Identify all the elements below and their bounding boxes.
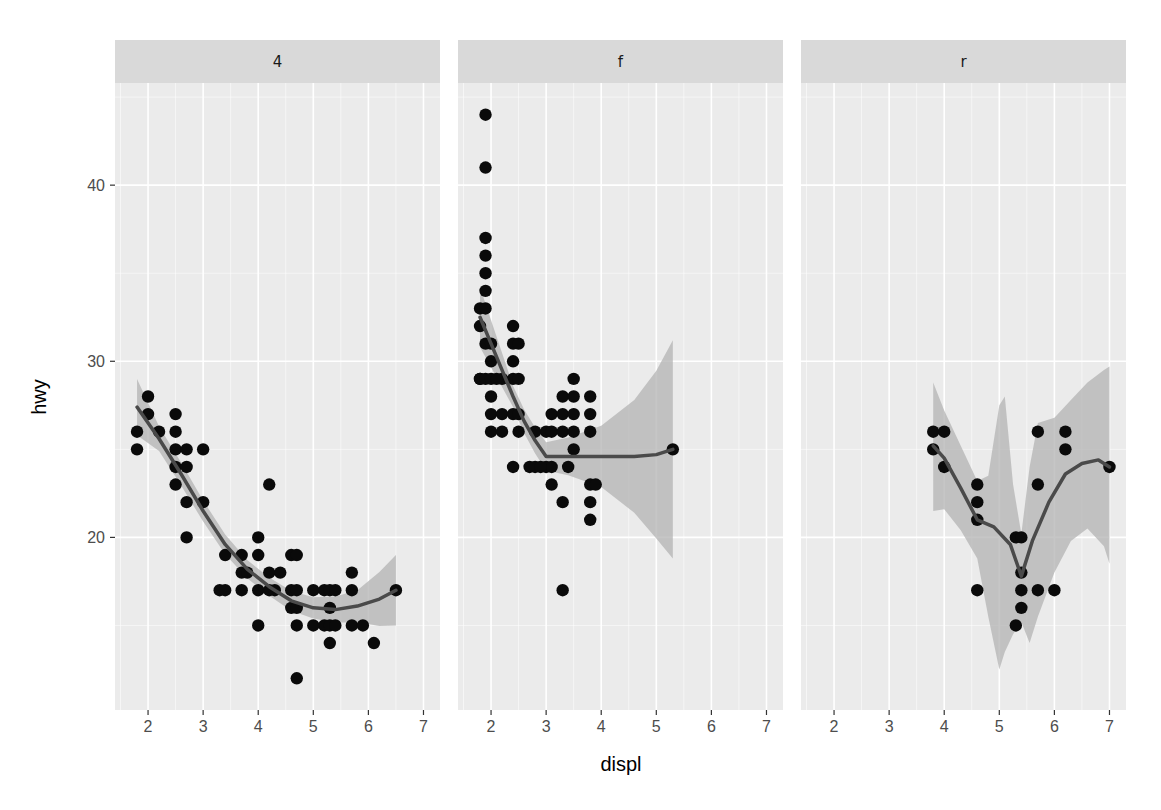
data-point — [485, 408, 497, 420]
data-point — [567, 373, 579, 385]
data-point — [169, 478, 181, 490]
data-point — [180, 461, 192, 473]
data-point — [291, 672, 303, 684]
facet-strip-label: 4 — [273, 53, 283, 71]
data-point — [584, 408, 596, 420]
panel-background — [458, 83, 783, 710]
data-point — [567, 408, 579, 420]
x-tick-label: 7 — [419, 718, 428, 735]
x-tick-label: 5 — [995, 718, 1004, 735]
data-point — [180, 496, 192, 508]
y-tick-label: 40 — [87, 177, 105, 194]
data-point — [584, 496, 596, 508]
data-point — [567, 390, 579, 402]
data-point — [235, 584, 247, 596]
x-tick-label: 4 — [940, 718, 949, 735]
data-point — [1032, 584, 1044, 596]
y-axis: 203040 — [87, 177, 115, 546]
data-point — [252, 584, 264, 596]
data-point — [545, 426, 557, 438]
data-point — [479, 302, 491, 314]
x-axis-ticks: 234567 — [487, 710, 771, 735]
x-tick-label: 7 — [1105, 718, 1114, 735]
facet-panel-4: 4234567 — [115, 40, 440, 735]
data-point — [1059, 426, 1071, 438]
data-point — [142, 390, 154, 402]
data-point — [1032, 426, 1044, 438]
x-axis-ticks: 234567 — [144, 710, 428, 735]
data-point — [971, 584, 983, 596]
data-point — [479, 267, 491, 279]
data-point — [1010, 619, 1022, 631]
x-tick-label: 5 — [652, 718, 661, 735]
data-point — [512, 426, 524, 438]
data-point — [180, 443, 192, 455]
data-point — [545, 461, 557, 473]
x-tick-label: 5 — [309, 718, 318, 735]
data-point — [496, 408, 508, 420]
data-point — [1059, 443, 1071, 455]
data-point — [584, 390, 596, 402]
faceted-scatter-chart: 4234567f234567r234567 203040 hwy displ — [0, 0, 1161, 810]
x-tick-label: 3 — [885, 718, 894, 735]
data-point — [219, 584, 231, 596]
data-point — [927, 426, 939, 438]
data-point — [169, 426, 181, 438]
data-point — [479, 232, 491, 244]
data-point — [346, 584, 358, 596]
data-point — [263, 478, 275, 490]
data-point — [169, 408, 181, 420]
data-point — [479, 249, 491, 261]
x-tick-label: 4 — [597, 718, 606, 735]
data-point — [1032, 478, 1044, 490]
data-point — [307, 584, 319, 596]
data-point — [329, 619, 341, 631]
x-tick-label: 2 — [830, 718, 839, 735]
x-tick-label: 2 — [487, 718, 496, 735]
y-axis-title: hwy — [28, 379, 50, 415]
x-tick-label: 7 — [762, 718, 771, 735]
x-tick-label: 6 — [1050, 718, 1059, 735]
data-point — [507, 355, 519, 367]
data-point — [329, 584, 341, 596]
data-point — [938, 426, 950, 438]
data-point — [252, 619, 264, 631]
data-point — [556, 390, 568, 402]
data-point — [567, 426, 579, 438]
facet-strip-label: r — [960, 53, 967, 71]
data-point — [507, 320, 519, 332]
data-point — [534, 461, 546, 473]
x-tick-label: 4 — [254, 718, 263, 735]
data-point — [490, 373, 502, 385]
data-point — [485, 426, 497, 438]
facet-panel-r: r234567 — [801, 40, 1126, 735]
data-point — [971, 478, 983, 490]
data-point — [291, 549, 303, 561]
data-point — [971, 496, 983, 508]
data-point — [263, 566, 275, 578]
data-point — [346, 566, 358, 578]
data-point — [556, 584, 568, 596]
data-point — [545, 408, 557, 420]
data-point — [1015, 531, 1027, 543]
data-point — [291, 584, 303, 596]
data-point — [346, 619, 358, 631]
x-tick-label: 3 — [199, 718, 208, 735]
data-point — [357, 619, 369, 631]
facet-strip-label: f — [618, 53, 624, 71]
x-tick-label: 3 — [542, 718, 551, 735]
data-point — [567, 443, 579, 455]
y-tick-label: 20 — [87, 529, 105, 546]
data-point — [485, 390, 497, 402]
data-point — [324, 637, 336, 649]
data-point — [307, 619, 319, 631]
data-point — [496, 426, 508, 438]
data-point — [197, 443, 209, 455]
x-axis-ticks: 234567 — [830, 710, 1114, 735]
data-point — [291, 619, 303, 631]
data-point — [584, 514, 596, 526]
data-point — [512, 337, 524, 349]
data-point — [131, 426, 143, 438]
data-point — [479, 161, 491, 173]
data-point — [512, 373, 524, 385]
